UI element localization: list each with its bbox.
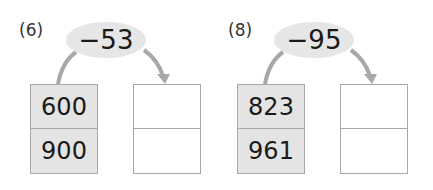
input-cell: 600	[31, 85, 97, 129]
problem-number: (6)	[19, 20, 43, 40]
answer-box	[340, 84, 408, 174]
operation-oval: −95	[274, 22, 354, 58]
problem-number: (8)	[228, 20, 252, 40]
input-box: 600 900	[30, 84, 98, 174]
problem-8: (8) −95 823 961	[220, 0, 430, 190]
answer-cell[interactable]	[341, 129, 407, 173]
input-box: 823 961	[237, 84, 305, 174]
operation-oval: −53	[66, 22, 146, 58]
answer-cell[interactable]	[341, 85, 407, 129]
input-cell: 823	[238, 85, 304, 129]
input-cell: 900	[31, 129, 97, 173]
answer-cell[interactable]	[134, 85, 200, 129]
answer-cell[interactable]	[134, 129, 200, 173]
input-cell: 961	[238, 129, 304, 173]
problem-6: (6) −53 600 900	[0, 0, 210, 190]
answer-box	[133, 84, 201, 174]
